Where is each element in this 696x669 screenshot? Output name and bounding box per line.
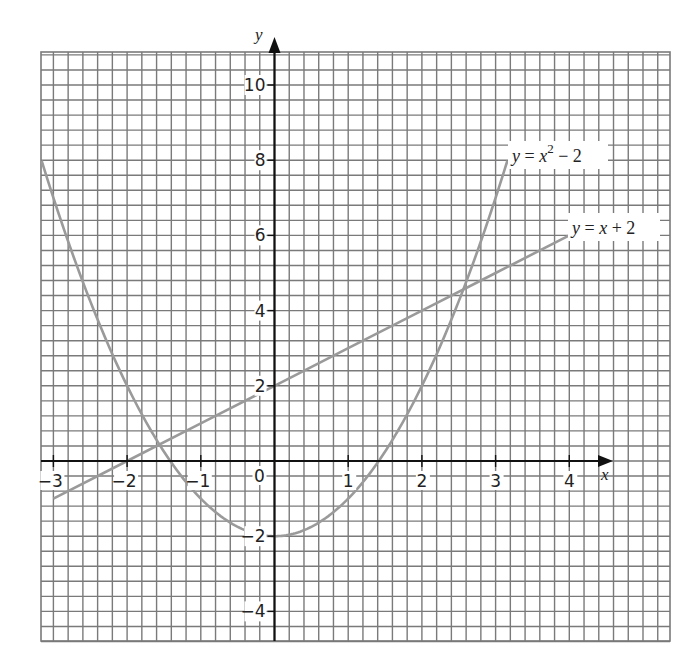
- y-tick-label: −4: [240, 601, 265, 621]
- y-axis-name: y: [253, 25, 263, 44]
- x-tick-label: 2: [416, 471, 427, 491]
- x-axis-name: x: [600, 465, 609, 484]
- svg-text:y = x + 2: y = x + 2: [570, 218, 635, 238]
- label-y: y: [570, 218, 580, 238]
- y-tick-label: 10: [244, 75, 266, 95]
- label-rest: − 2: [554, 146, 582, 166]
- y-axis-arrow-icon: [269, 37, 281, 53]
- y-tick-label: 8: [255, 150, 266, 170]
- graph-figure: −3−2−112340108642−2−4 y x y = x2 − 2 y =…: [0, 0, 696, 669]
- grid-border: [41, 52, 670, 641]
- y-axis-label: y: [253, 25, 263, 44]
- y-tick-label: 6: [255, 225, 266, 245]
- grid: [41, 52, 670, 641]
- x-tick-label: −3: [38, 471, 63, 491]
- x-tick-label: −2: [112, 471, 137, 491]
- label-rest: + 2: [607, 218, 635, 238]
- origin-label: 0: [254, 466, 265, 486]
- label-eq: =: [580, 218, 599, 238]
- x-tick-label: −1: [185, 471, 210, 491]
- x-tick-label: 3: [490, 471, 501, 491]
- y-tick-label: −2: [240, 526, 265, 546]
- label-x: x: [538, 146, 547, 166]
- line-curve: [53, 235, 569, 498]
- tick-labels: −3−2−112340108642−2−4: [38, 75, 577, 621]
- y-tick-label: 4: [255, 301, 266, 321]
- x-axis-label: x: [600, 465, 609, 484]
- curve-label-line: y = x + 2: [568, 213, 660, 241]
- y-tick-label: 2: [255, 376, 266, 396]
- x-tick-label: 4: [564, 471, 575, 491]
- x-tick-label: 1: [343, 471, 354, 491]
- curve-label-parabola: y = x2 − 2: [508, 141, 608, 169]
- label-x: x: [598, 218, 607, 238]
- label-eq: =: [520, 146, 539, 166]
- label-y: y: [510, 146, 520, 166]
